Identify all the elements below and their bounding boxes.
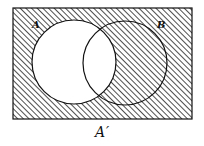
diagram-caption: A′: [95, 124, 110, 140]
set-a-label: A: [32, 19, 40, 30]
set-a-circle: [32, 20, 116, 104]
set-b-label: B: [157, 19, 165, 30]
